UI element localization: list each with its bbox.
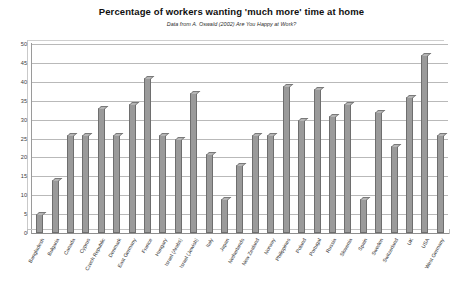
x-label-slot: Israel (Jewish) (186, 236, 201, 290)
bar-top-face (67, 133, 77, 136)
bar-top-face (144, 76, 154, 79)
bar (283, 86, 290, 233)
bar-slot (109, 44, 124, 233)
bar-slot (78, 44, 93, 233)
bar (375, 112, 382, 233)
bar-top-face (314, 87, 324, 90)
bar (437, 135, 444, 233)
bar (159, 135, 166, 233)
x-label-slot: Poland (294, 236, 309, 290)
x-label-slot: Bangladesh (32, 236, 47, 290)
bar-top-face (406, 95, 416, 98)
y-tick-label: 15 (21, 173, 27, 179)
gridline-0 (32, 233, 448, 234)
x-axis-tick-labels: BangladeshBulgariaCanadaCyprusCzech Repu… (32, 236, 448, 290)
y-tick-label: 5 (24, 211, 27, 217)
bar (52, 180, 59, 233)
bar-slot (171, 44, 186, 233)
bar-slot (402, 44, 417, 233)
bar-top-face (437, 133, 447, 136)
x-tick-label: France (140, 237, 153, 254)
bar-slot (417, 44, 432, 233)
bar (252, 135, 259, 233)
x-label-slot: France (140, 236, 155, 290)
plot-area (32, 44, 448, 233)
x-tick-label: Sweden (370, 237, 384, 256)
bar-top-face (82, 133, 92, 136)
bar-top-face (52, 178, 62, 181)
y-tick-label: 30 (21, 117, 27, 123)
bar-top-face (267, 133, 277, 136)
bar-slot (386, 44, 401, 233)
bar (236, 165, 243, 233)
x-tick-label: UK (406, 237, 415, 246)
bar-top-face (159, 133, 169, 136)
bar (129, 104, 136, 233)
x-tick-label: Bulgaria (46, 237, 60, 256)
x-tick-label: Poland (294, 237, 307, 254)
bar-top-face (283, 84, 293, 87)
x-tick-label: Spain (357, 237, 369, 251)
bar-top-face (344, 102, 354, 105)
y-tick-label: 50 (21, 41, 27, 47)
bar (267, 135, 274, 233)
bar-slot (340, 44, 355, 233)
bar-top-face (375, 110, 385, 113)
bar-top-face (391, 144, 401, 147)
bar-series (32, 44, 448, 233)
bar-slot (94, 44, 109, 233)
bar-slot (232, 44, 247, 233)
y-tick-label: 40 (21, 79, 27, 85)
bar-slot (140, 44, 155, 233)
x-tick-label: Portugal (308, 237, 323, 257)
bar (421, 55, 428, 233)
bar-top-face (252, 133, 262, 136)
bar-slot (433, 44, 448, 233)
bar-top-face (190, 91, 200, 94)
x-tick-label: Russia (325, 237, 338, 254)
bar (144, 78, 151, 233)
bar (329, 116, 336, 233)
bar-slot (32, 44, 47, 233)
bar-top-face (329, 114, 339, 117)
bar-top-face (36, 212, 46, 215)
bar (175, 139, 182, 234)
y-tick-label: 35 (21, 98, 27, 104)
bar-chart: Percentage of workers wanting 'much more… (0, 0, 463, 290)
x-tick-label: Cyprus (78, 237, 91, 254)
x-tick-label: Denmark (107, 237, 122, 258)
x-label-slot: Switzerland (386, 236, 401, 290)
bar (36, 214, 43, 233)
bar-slot (325, 44, 340, 233)
x-tick-label: Italy (205, 237, 215, 248)
x-label-slot: Canada (63, 236, 78, 290)
bar-top-face (206, 152, 216, 155)
bar (82, 135, 89, 233)
bar (206, 154, 213, 233)
y-tick-label: 45 (21, 60, 27, 66)
bar-slot (201, 44, 216, 233)
bar-top-face (236, 163, 246, 166)
x-label-slot: East Germany (124, 236, 139, 290)
bar-top-face (113, 133, 123, 136)
x-tick-label: USA (420, 237, 430, 249)
x-tick-label: Hungary (154, 237, 169, 257)
x-label-slot: Italy (201, 236, 216, 290)
x-label-slot: Russia (325, 236, 340, 290)
y-tick-label: 25 (21, 136, 27, 142)
x-label-slot: Philippines (279, 236, 294, 290)
bar (391, 146, 398, 233)
bar-slot (186, 44, 201, 233)
x-tick-label: Canada (62, 237, 76, 256)
x-label-slot: UK (402, 236, 417, 290)
x-tick-label: Bangladesh (27, 237, 45, 264)
bar-slot (155, 44, 170, 233)
y-tick-label: 10 (21, 192, 27, 198)
x-label-slot: Bulgaria (47, 236, 62, 290)
bar-top-face (129, 102, 139, 105)
y-tick-label: 0 (24, 230, 27, 236)
bar (406, 97, 413, 233)
bar-slot (248, 44, 263, 233)
bar-top-face (98, 106, 108, 109)
bar-slot (279, 44, 294, 233)
